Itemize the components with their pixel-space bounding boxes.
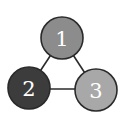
graph-diagram: 1 2 3 xyxy=(0,0,129,122)
node-2-label: 2 xyxy=(22,77,35,101)
node-2: 2 xyxy=(8,67,50,109)
node-1-label: 1 xyxy=(55,27,68,51)
node-3: 3 xyxy=(75,69,117,111)
node-3-label: 3 xyxy=(89,79,102,103)
node-1: 1 xyxy=(41,17,83,59)
